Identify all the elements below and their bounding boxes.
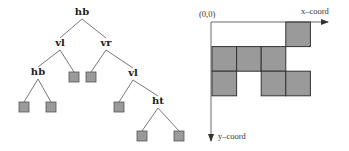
tree-edge [60, 19, 82, 38]
tree-edges [24, 19, 179, 131]
grid-cell [286, 22, 311, 47]
leaf-module [174, 131, 184, 141]
grid-cell [212, 47, 237, 72]
leaf-module [19, 102, 29, 112]
grid-cell [261, 47, 286, 72]
origin-label: (0,0) [199, 9, 215, 19]
tree-edge [158, 108, 179, 131]
leaf-module [137, 131, 147, 141]
leaf-module [46, 102, 56, 112]
tree-node-hb: hb [75, 6, 89, 17]
tree-edge [24, 79, 38, 102]
tree-edge [60, 50, 74, 72]
tree-node-vl: vl [127, 67, 138, 78]
floorplan-grid: (0,0) x–coord y–coord [199, 6, 330, 141]
tree-leaves [19, 72, 184, 141]
leaf-module [86, 72, 96, 82]
grid-cell [286, 71, 311, 96]
tree-node-vr: vr [99, 37, 112, 48]
tree-edge [82, 19, 106, 38]
grid-cell [212, 71, 237, 96]
diagram-canvas: hbvlvrhbvlht (0,0) x–coord y–coord [0, 0, 349, 151]
tree-edge [142, 108, 158, 131]
leaf-module [69, 72, 79, 82]
leaf-module [114, 102, 124, 112]
tree-edge [119, 80, 133, 102]
y-axis-label: y–coord [218, 131, 247, 141]
tree-edge [133, 80, 158, 96]
grid-cells [212, 22, 310, 96]
x-axis-label: x–coord [301, 6, 330, 16]
tree-edge [106, 50, 133, 68]
slicing-tree: hbvlvrhbvlht [19, 6, 184, 141]
tree-node-hb: hb [31, 66, 45, 77]
tree-edge [91, 50, 106, 72]
tree-edge [38, 79, 51, 102]
grid-cell [261, 71, 286, 96]
tree-node-ht: ht [152, 95, 164, 106]
tree-edge [38, 50, 60, 67]
tree-nodes: hbvlvrhbvlht [31, 6, 164, 106]
grid-cell [237, 47, 262, 72]
tree-node-vl: vl [54, 37, 65, 48]
